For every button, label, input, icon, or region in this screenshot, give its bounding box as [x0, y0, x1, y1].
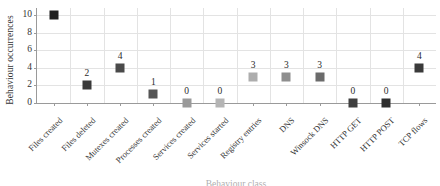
y-tick-label: 4	[27, 63, 32, 73]
x-tick-label-tcp-flows: TCP flows	[397, 116, 429, 148]
y-axis-title: Behaviour occurrences	[5, 4, 15, 116]
y-tick-label: 2	[27, 81, 32, 91]
y-tick-label: 10	[23, 10, 33, 20]
x-axis-title: Behaviour class	[36, 179, 436, 186]
data-point-label: 0	[351, 87, 356, 97]
x-tick-mark	[286, 103, 287, 106]
x-gridline	[370, 8, 371, 103]
x-gridline	[170, 8, 171, 103]
data-point-marker	[315, 72, 324, 81]
y-tick-mark	[34, 33, 37, 34]
y-tick-mark	[34, 103, 37, 104]
x-tick-mark	[54, 103, 55, 106]
x-tick-mark	[253, 103, 254, 106]
x-tick-mark	[153, 103, 154, 106]
data-point-label: 4	[417, 51, 422, 61]
x-gridline	[303, 8, 304, 103]
data-point-label: 0	[184, 87, 189, 97]
x-gridline	[237, 8, 238, 103]
data-point-marker	[49, 11, 58, 20]
data-point-marker	[116, 63, 125, 72]
data-point-label: 3	[251, 60, 256, 70]
data-point-marker	[182, 99, 191, 108]
y-tick-label: 8	[27, 28, 32, 38]
data-point-marker	[415, 63, 424, 72]
x-tick-mark	[87, 103, 88, 106]
y-tick-mark	[34, 15, 37, 16]
x-tick-mark	[120, 103, 121, 106]
chart-figure: Behaviour occurrences 0246810Files creat…	[0, 0, 440, 186]
x-tick-label-dns: DNS	[278, 116, 296, 134]
x-gridline	[104, 8, 105, 103]
data-point-marker	[82, 81, 91, 90]
y-tick-mark	[34, 50, 37, 51]
x-gridline	[203, 8, 204, 103]
data-point-label: 0	[218, 87, 223, 97]
data-point-label: 0	[384, 87, 389, 97]
data-point-marker	[249, 72, 258, 81]
data-point-marker	[348, 99, 357, 108]
y-tick-mark	[34, 68, 37, 69]
x-gridline	[137, 8, 138, 103]
data-point-marker	[282, 72, 291, 81]
x-tick-label-files-created: Files created	[27, 116, 64, 153]
data-point-marker	[149, 90, 158, 99]
x-gridline	[270, 8, 271, 103]
y-tick-mark	[34, 85, 37, 86]
data-point-label: 4	[118, 51, 123, 61]
data-point-label: 3	[284, 60, 289, 70]
x-gridline	[336, 8, 337, 103]
data-point-marker	[382, 99, 391, 108]
x-gridline	[70, 8, 71, 103]
x-tick-mark	[320, 103, 321, 106]
x-gridline	[403, 8, 404, 103]
x-tick-label-http-post: HTTP POST	[359, 116, 396, 153]
data-point-label: 1	[151, 78, 156, 88]
data-point-label: 2	[85, 69, 90, 79]
y-tick-label: 6	[27, 45, 32, 55]
y-tick-label: 0	[27, 98, 32, 108]
data-point-label: 3	[317, 60, 322, 70]
x-tick-mark	[419, 103, 420, 106]
plot-area: 0246810Files createdFiles deleted2Mutexe…	[36, 8, 436, 104]
data-point-marker	[215, 99, 224, 108]
